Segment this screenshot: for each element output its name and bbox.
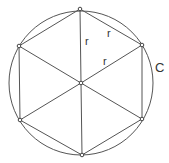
center-point (79, 81, 83, 85)
radius-top (80, 9, 81, 83)
vertex-point (78, 7, 82, 11)
label-radius-2: r (107, 27, 111, 39)
radius-lower-right (81, 83, 142, 119)
label-radius-1: r (85, 35, 89, 47)
vertex-point (140, 117, 144, 121)
radius-bottom (81, 83, 82, 155)
label-circle-c: C (155, 60, 164, 75)
vertex-point (80, 153, 84, 157)
radius-lower-left (20, 83, 81, 120)
hexagon-in-circle-diagram: r r r C (0, 0, 169, 163)
vertex-point (140, 43, 144, 47)
label-radius-3: r (103, 55, 107, 67)
vertex-point (17, 44, 21, 48)
radius-upper-left (19, 46, 81, 83)
radius-upper-right (81, 45, 142, 83)
vertex-point (18, 118, 22, 122)
